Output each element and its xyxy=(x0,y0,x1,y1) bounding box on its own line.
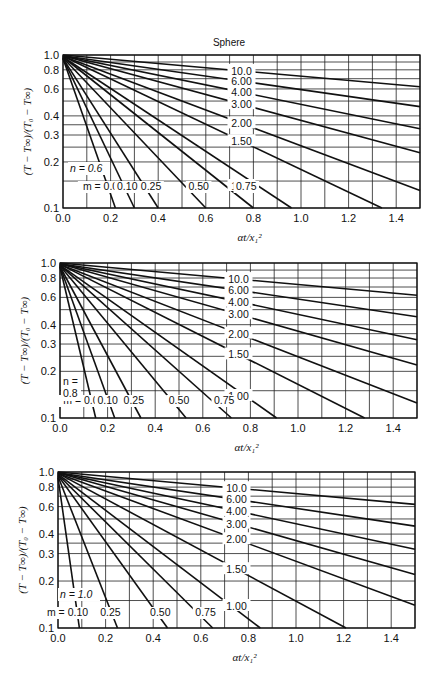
curve-label: 10.0 xyxy=(226,482,247,494)
curve-label: 4.00 xyxy=(231,86,252,98)
x-tick-label: 0.6 xyxy=(193,632,208,644)
curve-1.50 xyxy=(58,473,346,628)
curve-label: 0.75 xyxy=(236,180,257,192)
curve-label: 1.50 xyxy=(228,348,249,360)
curve-label: 0.50 xyxy=(150,606,171,618)
x-tick-label: 0.2 xyxy=(100,422,115,434)
y-tick-label: 0.8 xyxy=(39,481,54,493)
n-parameter-label: n = 1.0 xyxy=(60,588,93,600)
x-tick-label: 1.0 xyxy=(290,422,305,434)
curve-label: 0.75 xyxy=(214,394,235,406)
curve-label: 3.00 xyxy=(228,308,249,320)
curve-label: 6.00 xyxy=(226,493,247,505)
x-tick-label: 1.2 xyxy=(338,422,353,434)
y-axis-label: (T − T∞)/(T₀ − T∞) xyxy=(18,297,31,385)
x-tick-label: 0.4 xyxy=(148,422,163,434)
x-axis-label: αt/x₁² xyxy=(238,231,263,243)
curve-label: 0.10 xyxy=(117,180,138,192)
x-tick-label: 1.4 xyxy=(389,212,404,224)
y-tick-label: 0.1 xyxy=(39,622,54,634)
x-tick-label: 1.0 xyxy=(288,632,303,644)
x-tick-label: 1.0 xyxy=(293,212,308,224)
x-tick-label: 0.8 xyxy=(241,632,256,644)
curve-label: 0.25 xyxy=(141,180,162,192)
curve-label: 10.0 xyxy=(231,65,252,77)
y-axis-label: (T − T∞)/(T₀ − T∞) xyxy=(21,88,34,176)
x-tick-label: 0.2 xyxy=(103,212,118,224)
n-parameter-label: n = xyxy=(63,375,78,387)
x-tick-label: 0.8 xyxy=(243,422,258,434)
chart-canvas: 1.001.502.003.004.006.0010.0m = 0.000.10… xyxy=(0,0,440,690)
curve-label: 2.00 xyxy=(228,328,249,340)
y-tick-label: 0.3 xyxy=(39,548,54,560)
chart-title: Sphere xyxy=(213,37,246,48)
n-parameter-label: 0.8 xyxy=(63,387,78,399)
y-tick-label: 0.8 xyxy=(44,64,59,76)
curve-label: 3.00 xyxy=(231,98,252,110)
curve-label: 1.00 xyxy=(226,600,247,612)
curve-label: 6.00 xyxy=(228,284,249,296)
curve-label: 6.00 xyxy=(231,75,252,87)
curve-label: 4.00 xyxy=(226,505,247,517)
curve-label: 10.0 xyxy=(228,273,249,285)
y-tick-label: 0.1 xyxy=(44,202,59,214)
y-tick-label: 0.2 xyxy=(44,156,59,168)
curve-label: 0.25 xyxy=(100,606,121,618)
curve-label: m = 0.10 xyxy=(47,606,88,618)
n-parameter-label: n = 0.6 xyxy=(70,162,103,174)
x-tick-label: 1.4 xyxy=(386,422,401,434)
curve-label: 3.00 xyxy=(226,518,247,530)
y-tick-label: 0.6 xyxy=(39,501,54,513)
y-axis-label: (T − T∞)/(T₀ − T∞) xyxy=(16,506,29,594)
x-tick-label: 0.4 xyxy=(146,632,161,644)
y-tick-label: 1.0 xyxy=(44,49,59,61)
x-tick-label: 0.4 xyxy=(151,212,166,224)
y-tick-label: 0.8 xyxy=(41,272,56,284)
curve-label: 0.50 xyxy=(169,394,190,406)
x-tick-label: 1.2 xyxy=(341,212,356,224)
curve-label: 1.50 xyxy=(226,563,247,575)
x-axis-label: αt/x₁² xyxy=(233,651,258,663)
y-tick-label: 0.6 xyxy=(41,291,56,303)
x-tick-label: 1.2 xyxy=(336,632,351,644)
curve-label: 0.10 xyxy=(97,394,118,406)
y-tick-label: 1.0 xyxy=(41,257,56,269)
x-tick-label: 0.6 xyxy=(195,422,210,434)
curve-label: 0.75 xyxy=(195,606,216,618)
y-tick-label: 0.4 xyxy=(41,319,56,331)
y-tick-label: 0.3 xyxy=(41,338,56,350)
curve-label: 0.50 xyxy=(188,180,209,192)
curve-label: 2.00 xyxy=(226,533,247,545)
x-axis-label: αt/x₁² xyxy=(235,441,260,453)
x-tick-label: 1.4 xyxy=(384,632,399,644)
y-tick-label: 0.2 xyxy=(39,575,54,587)
y-tick-label: 0.2 xyxy=(41,365,56,377)
y-tick-label: 1.0 xyxy=(39,466,54,478)
y-tick-label: 0.6 xyxy=(44,83,59,95)
curve-label: 0.25 xyxy=(124,394,145,406)
curve-label: 4.00 xyxy=(228,296,249,308)
x-tick-label: 0.2 xyxy=(98,632,113,644)
y-tick-label: 0.4 xyxy=(44,110,59,122)
y-tick-label: 0.4 xyxy=(39,528,54,540)
x-tick-label: 0.8 xyxy=(246,212,261,224)
x-tick-label: 0.6 xyxy=(198,212,213,224)
y-tick-label: 0.1 xyxy=(41,412,56,424)
y-tick-label: 0.3 xyxy=(44,129,59,141)
curve-label: 2.00 xyxy=(231,117,252,129)
curve-label: 1.50 xyxy=(231,135,252,147)
